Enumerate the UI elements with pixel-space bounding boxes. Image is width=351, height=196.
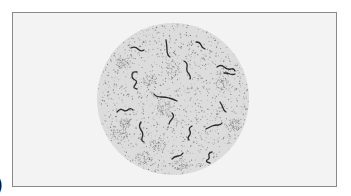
microscope-field-illustration bbox=[0, 0, 351, 196]
